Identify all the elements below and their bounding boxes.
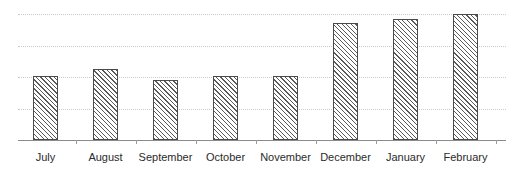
bar-chart: JulyAugustSeptemberOctoberNovemberDecemb…	[0, 0, 518, 173]
x-axis-tick	[136, 140, 137, 144]
x-axis-tick	[196, 140, 197, 144]
x-axis-tick-label: July	[16, 151, 76, 164]
plot-area	[0, 0, 518, 145]
x-axis-line	[18, 140, 506, 141]
x-axis-tick-label: February	[436, 151, 496, 164]
x-axis-tick-label: September	[136, 151, 196, 164]
x-axis-tick	[316, 140, 317, 144]
x-axis-tick-label: January	[376, 151, 436, 164]
x-axis-tick	[496, 140, 497, 144]
x-axis-tick-label: December	[316, 151, 376, 164]
x-axis-tick-label: August	[76, 151, 136, 164]
x-axis-tick	[436, 140, 437, 144]
x-axis	[0, 0, 518, 145]
x-axis-tick-labels: JulyAugustSeptemberOctoberNovemberDecemb…	[0, 145, 518, 173]
x-axis-tick-label: October	[196, 151, 256, 164]
x-axis-tick	[376, 140, 377, 144]
x-axis-tick	[256, 140, 257, 144]
x-axis-tick	[76, 140, 77, 144]
x-axis-tick-label: November	[256, 151, 316, 164]
